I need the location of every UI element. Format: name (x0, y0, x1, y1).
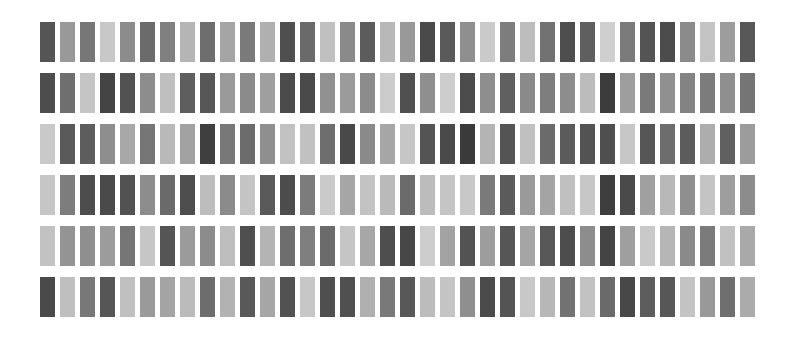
bar-cell (600, 226, 615, 266)
bar-cell (540, 226, 555, 266)
bar-cell (100, 175, 115, 215)
bar-cell (40, 226, 55, 266)
bar-cell (540, 22, 555, 62)
bar-cell (340, 175, 355, 215)
bar-cell (480, 175, 495, 215)
bar-cell (620, 124, 635, 164)
bar-cell (240, 175, 255, 215)
bar-cell (360, 73, 375, 113)
bar-cell (360, 124, 375, 164)
bar-cell (180, 22, 195, 62)
bar-cell (380, 277, 395, 317)
bar-cell (640, 277, 655, 317)
bar-cell (420, 175, 435, 215)
bar-cell (560, 277, 575, 317)
bar-cell (480, 22, 495, 62)
bar-cell (620, 175, 635, 215)
bar-cell (160, 22, 175, 62)
bar-cell (260, 73, 275, 113)
bar-cell (460, 226, 475, 266)
bar-cell (500, 277, 515, 317)
bar-cell (500, 226, 515, 266)
bar-cell (680, 73, 695, 113)
bar-cell (660, 226, 675, 266)
bar-cell (400, 175, 415, 215)
bar-cell (240, 124, 255, 164)
bar-cell (200, 226, 215, 266)
bar-cell (600, 22, 615, 62)
bar-cell (580, 73, 595, 113)
bar-cell (420, 277, 435, 317)
bar-cell (160, 124, 175, 164)
bar-cell (140, 277, 155, 317)
bar-cell (200, 277, 215, 317)
bar-cell (460, 124, 475, 164)
bar-cell (400, 277, 415, 317)
bar-cell (700, 175, 715, 215)
bar-row (40, 22, 760, 62)
bar-cell (440, 175, 455, 215)
bar-cell (640, 175, 655, 215)
bar-cell (100, 124, 115, 164)
bar-cell (320, 73, 335, 113)
bar-cell (280, 226, 295, 266)
bar-cell (580, 277, 595, 317)
bar-cell (540, 124, 555, 164)
bar-cell (360, 22, 375, 62)
bar-cell (280, 124, 295, 164)
bar-cell (300, 22, 315, 62)
bar-cell (520, 175, 535, 215)
bar-cell (80, 22, 95, 62)
bar-cell (500, 124, 515, 164)
bar-cell (180, 175, 195, 215)
bar-cell (400, 226, 415, 266)
bar-cell (100, 226, 115, 266)
bar-cell (160, 226, 175, 266)
bar-cell (280, 175, 295, 215)
bar-cell (380, 73, 395, 113)
bar-cell (520, 22, 535, 62)
bar-cell (600, 175, 615, 215)
bar-cell (620, 22, 635, 62)
bar-cell (600, 73, 615, 113)
bar-cell (200, 124, 215, 164)
bar-cell (320, 226, 335, 266)
bar-cell (680, 226, 695, 266)
bar-cell (400, 22, 415, 62)
bar-cell (100, 277, 115, 317)
bar-cell (500, 73, 515, 113)
bar-cell (420, 226, 435, 266)
bar-cell (700, 226, 715, 266)
bar-cell (460, 73, 475, 113)
bar-cell (220, 226, 235, 266)
bar-cell (80, 277, 95, 317)
bar-cell (720, 175, 735, 215)
bar-cell (120, 124, 135, 164)
bar-cell (240, 277, 255, 317)
bar-cell (80, 73, 95, 113)
bar-cell (340, 124, 355, 164)
bar-cell (740, 124, 755, 164)
bar-cell (220, 124, 235, 164)
bar-cell (260, 124, 275, 164)
bar-cell (120, 277, 135, 317)
bar-cell (440, 124, 455, 164)
bar-cell (60, 175, 75, 215)
bar-cell (60, 277, 75, 317)
bar-cell (660, 73, 675, 113)
bar-cell (700, 124, 715, 164)
bar-cell (80, 124, 95, 164)
bar-cell (680, 175, 695, 215)
bar-cell (640, 124, 655, 164)
bar-cell (460, 175, 475, 215)
bar-cell (480, 226, 495, 266)
bar-cell (200, 73, 215, 113)
bar-cell (280, 22, 295, 62)
bar-cell (300, 277, 315, 317)
bar-cell (60, 124, 75, 164)
bar-cell (480, 73, 495, 113)
bar-cell (160, 175, 175, 215)
bar-cell (520, 277, 535, 317)
bar-cell (660, 124, 675, 164)
bar-row (40, 124, 760, 164)
